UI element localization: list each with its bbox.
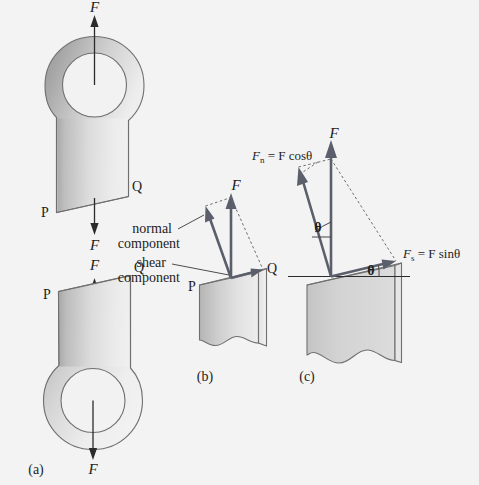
panel-b: P Q F normal — [118, 177, 277, 385]
label-force-mid-upper: F — [89, 237, 100, 253]
panel-c-shear-eq-rest: = F sinθ — [414, 246, 460, 261]
upper-link-plate-shade — [58, 119, 128, 212]
caption-panel-b: (b) — [197, 369, 214, 385]
panel-c-shear-equation: Fs = F sinθ — [402, 246, 460, 263]
label-force-mid-lower: F — [89, 257, 100, 273]
panel-b-slab-side — [259, 269, 267, 347]
label-force-top: F — [89, 0, 100, 15]
panel-b-shear-leader — [172, 264, 229, 275]
svg-text:Fn = F cosθ: Fn = F cosθ — [251, 148, 312, 165]
panel-c-normal-equation: Fn = F cosθ — [251, 148, 318, 174]
panel-c-slab-side — [395, 263, 402, 363]
panel-b-normal-leader — [178, 215, 204, 229]
caption-panel-a: (a) — [28, 462, 44, 478]
panel-b-shear-label-line1: shear — [136, 255, 166, 270]
figure-container: F P Q F F P — [0, 0, 479, 485]
label-force-bottom: F — [87, 461, 98, 477]
panel-c-angle-label-vector: θ — [314, 220, 321, 235]
panel-c-parallelogram — [299, 159, 397, 261]
panel-b-normal-vector — [205, 206, 231, 278]
label-p-upper: P — [41, 205, 49, 220]
panel-c-label-force: F — [328, 125, 339, 141]
panel-b-normal-label-line1: normal — [132, 221, 172, 236]
panel-c-force-vector — [325, 140, 337, 277]
label-q-upper: Q — [132, 179, 142, 194]
panel-c-normal-eq-rest: = F cosθ — [264, 148, 312, 163]
mechanics-force-resolution-figure: F P Q F F P — [0, 0, 479, 485]
panel-c-angle-label-plane: θ — [367, 263, 374, 278]
panel-b-shear-label-line2: component — [118, 270, 180, 285]
panel-b-label-force: F — [230, 177, 241, 193]
label-p-panel-b: P — [188, 279, 196, 294]
panel-c-angle-arc-plane — [379, 266, 380, 277]
svg-text:Fs = F sinθ: Fs = F sinθ — [402, 246, 460, 263]
panel-c: F θ θ Fn = F cosθ — [251, 125, 460, 385]
label-p-lower: P — [43, 287, 51, 302]
panel-b-normal-label-line2: component — [118, 236, 180, 251]
label-q-panel-b: Q — [267, 261, 277, 276]
panel-c-slab-front — [307, 266, 395, 364]
caption-panel-c: (c) — [299, 369, 315, 385]
